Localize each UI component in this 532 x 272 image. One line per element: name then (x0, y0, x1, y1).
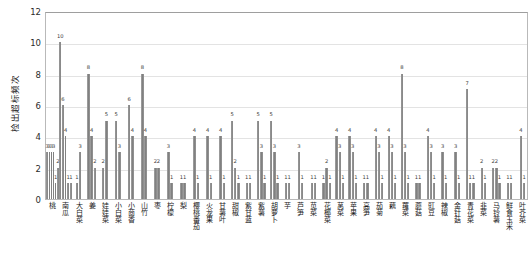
y-axis-label: 检出超标频次 (2, 0, 24, 205)
bar-value-label: 7 (465, 81, 468, 86)
bar-value-label: 4 (426, 128, 429, 133)
bar-group: 831 (398, 13, 411, 199)
bar-value-label: 4 (387, 128, 390, 133)
bar-group: 25 (98, 13, 111, 199)
bar: 1 (76, 183, 78, 199)
bar-value-label: 3 (338, 144, 341, 149)
bar: 1 (366, 183, 368, 199)
x-tick-label: 小白菜 (113, 202, 121, 223)
bar-value-label: 4 (519, 128, 522, 133)
bar-value-label: 3 (118, 144, 121, 149)
bar-group: 431 (425, 13, 438, 199)
bar-value-label: 1 (380, 175, 383, 180)
bar-value-label: 4 (374, 128, 377, 133)
bar-value-label: 5 (230, 112, 233, 117)
x-tick-label: 茄菊 (374, 202, 382, 216)
x-tick-label: 梨 (178, 202, 186, 209)
x-tick-label: 柠檬 (165, 202, 173, 216)
x-tick-label: 藕 (387, 202, 395, 209)
bar-group: 41 (216, 13, 229, 199)
bar-value-label: 1 (483, 175, 486, 180)
x-tick-label: 山竹 (139, 202, 147, 216)
bar: 1 (510, 183, 512, 199)
x-tick-label: 豇豆 (426, 202, 434, 216)
bar: 1 (263, 183, 265, 199)
bar: 6 (128, 105, 130, 199)
bar: 1 (355, 183, 357, 199)
bar: 6 (62, 105, 64, 199)
bar-group: 521 (229, 13, 242, 199)
x-tick-label: 芋 (283, 202, 291, 209)
bar-value-label: 3 (403, 144, 406, 149)
bar-value-label: 3 (377, 144, 380, 149)
bar-group: 11 (242, 13, 255, 199)
bar-value-label: 3 (454, 144, 457, 149)
bar: 2 (154, 168, 156, 199)
bar-value-label: 1 (222, 175, 225, 180)
y-axis-label-text: 检出超标频次 (7, 74, 19, 131)
bar: 2 (102, 168, 104, 199)
bar: 1 (67, 183, 69, 199)
bar: 1 (418, 183, 420, 199)
bar: 1 (433, 183, 435, 199)
bar-value-label: 2 (157, 159, 160, 164)
bar-value-label: 1 (263, 175, 266, 180)
bar-value-label: 1 (328, 175, 331, 180)
bar: 1 (498, 183, 500, 199)
bar-value-label: 4 (206, 128, 209, 133)
bar-group: 121 (320, 13, 333, 199)
bar-group: 531 (255, 13, 268, 199)
bar: 4 (520, 136, 522, 199)
bar-value-label: 3 (273, 144, 276, 149)
x-tick-label: 甜椒 (230, 202, 238, 216)
bar: 3 (79, 152, 81, 199)
bar-value-label: 1 (457, 175, 460, 180)
bar-group: 11 (503, 13, 516, 199)
bar-value-label: 3 (297, 144, 300, 149)
bar-value-label: 3 (441, 144, 444, 149)
y-tick-label: 2 (36, 164, 41, 174)
bar-group: 431 (346, 13, 359, 199)
x-tick-label: 火龙果 (204, 202, 212, 223)
bar-value-label: 1 (300, 175, 303, 180)
x-tick-label: 甘薯叶 (217, 202, 225, 223)
bar-value-label: 5 (257, 112, 260, 117)
bar-group: 431 (372, 13, 385, 199)
bar: 3 (46, 152, 47, 199)
bar: 7 (466, 89, 468, 199)
bar: 1 (314, 183, 316, 199)
bar-value-label: 1 (509, 175, 512, 180)
bar: 1 (407, 183, 409, 199)
bar-value-label: 4 (64, 128, 67, 133)
x-tick-label: 蕹菜 (400, 202, 408, 216)
bar: 1 (458, 183, 460, 199)
bar-value-label: 8 (400, 65, 403, 70)
y-tick-label: 8 (36, 70, 41, 80)
bar-value-label: 3 (260, 144, 263, 149)
bar: 1 (394, 183, 396, 199)
bar-group: 221 (490, 13, 503, 199)
bar: 3 (49, 152, 50, 199)
bar: 8 (87, 74, 89, 199)
bar-value-label: 4 (193, 128, 196, 133)
bar: 2 (481, 168, 483, 199)
bar-value-label: 1 (472, 175, 475, 180)
x-tick-label: 蘑菇 (413, 202, 421, 216)
bar-value-label: 4 (335, 128, 338, 133)
bar-group: 11 (281, 13, 294, 199)
bar-group: 431 (385, 13, 398, 199)
x-tick-label: 姜 (87, 202, 95, 209)
y-tick-label: 10 (30, 38, 41, 48)
bar-value-label: 1 (248, 175, 251, 180)
x-tick-label: 叶芥菜 (518, 202, 526, 223)
bar: 2 (234, 168, 236, 199)
bar-value-label: 3 (429, 144, 432, 149)
bar: 4 (90, 136, 92, 199)
bar-value-label: 2 (325, 159, 328, 164)
bar-value-label: 1 (498, 175, 501, 180)
bar-value-label: 4 (348, 128, 351, 133)
bar: 1 (288, 183, 290, 199)
bar-value-label: 4 (144, 128, 147, 133)
x-tick-label: 胡萝卜 (270, 202, 278, 223)
bar-value-label: 1 (366, 175, 369, 180)
